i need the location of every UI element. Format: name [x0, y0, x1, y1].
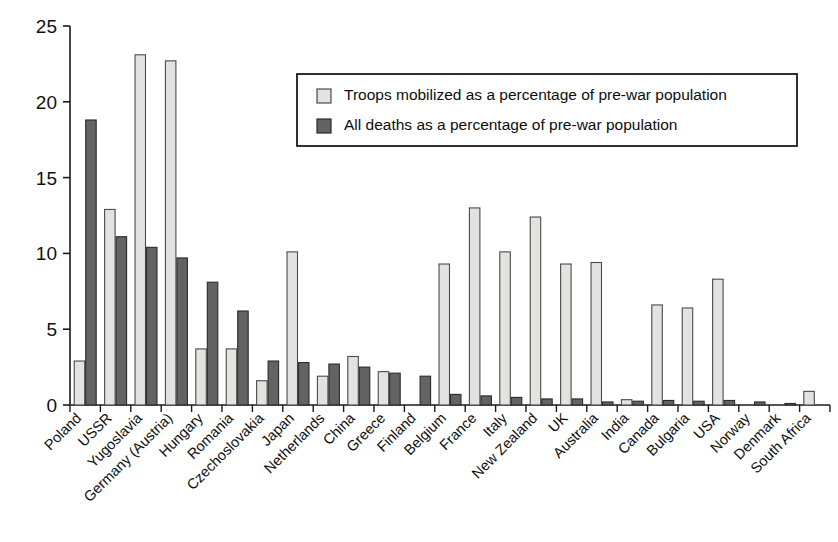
- bar-troops-mobilized: [74, 361, 84, 405]
- y-axis-tick-label: 15: [36, 168, 57, 189]
- bar-troops-mobilized: [105, 209, 115, 405]
- bar-troops-mobilized: [652, 305, 662, 405]
- bar-all-deaths: [663, 400, 673, 405]
- bar-all-deaths: [724, 400, 734, 405]
- bar-troops-mobilized: [713, 279, 723, 405]
- bar-all-deaths: [207, 282, 217, 405]
- legend-box: [297, 74, 797, 146]
- bar-troops-mobilized: [469, 208, 479, 405]
- bar-troops-mobilized: [348, 356, 358, 405]
- y-axis-tick-label: 10: [36, 243, 57, 264]
- bar-all-deaths: [268, 361, 278, 405]
- bar-troops-mobilized: [287, 252, 297, 405]
- bar-all-deaths: [755, 402, 765, 405]
- bar-troops-mobilized: [561, 264, 571, 405]
- bar-all-deaths: [542, 399, 552, 405]
- bar-troops-mobilized: [621, 400, 631, 405]
- y-axis-tick-label: 25: [36, 16, 57, 37]
- bar-troops-mobilized: [439, 264, 449, 405]
- legend-swatch-all-deaths: [317, 119, 331, 133]
- bar-troops-mobilized: [165, 61, 175, 405]
- bar-all-deaths: [420, 376, 430, 405]
- bar-all-deaths: [511, 397, 521, 405]
- bar-all-deaths: [116, 237, 126, 405]
- bar-all-deaths: [481, 396, 491, 405]
- bar-troops-mobilized: [196, 349, 206, 405]
- bar-troops-mobilized: [530, 217, 540, 405]
- bar-troops-mobilized: [682, 308, 692, 405]
- y-axis-tick-label: 0: [46, 395, 57, 416]
- bar-all-deaths: [86, 120, 96, 405]
- bar-troops-mobilized: [500, 252, 510, 405]
- bar-all-deaths: [329, 364, 339, 405]
- bar-all-deaths: [603, 402, 613, 405]
- bar-troops-mobilized: [135, 55, 145, 405]
- chart-canvas: 0510152025 PolandUSSRYugoslaviaGermany (…: [0, 0, 838, 542]
- bar-troops-mobilized: [378, 372, 388, 405]
- bar-all-deaths: [694, 401, 704, 405]
- bar-all-deaths: [359, 367, 369, 405]
- bar-all-deaths: [390, 373, 400, 405]
- bar-all-deaths: [238, 311, 248, 405]
- legend-swatch-troops-mobilized: [317, 89, 331, 103]
- bar-all-deaths: [785, 403, 795, 405]
- bar-troops-mobilized: [226, 349, 236, 405]
- bar-all-deaths: [147, 247, 157, 405]
- bar-troops-mobilized: [317, 376, 327, 405]
- bar-troops-mobilized: [804, 391, 814, 405]
- y-axis-tick-label: 20: [36, 92, 57, 113]
- y-axis-tick-label: 5: [46, 319, 57, 340]
- bar-chart: 0510152025 PolandUSSRYugoslaviaGermany (…: [0, 0, 838, 542]
- bar-all-deaths: [451, 394, 461, 405]
- legend-label-troops-mobilized: Troops mobilized as a percentage of pre-…: [344, 86, 727, 103]
- bar-all-deaths: [177, 258, 187, 405]
- bar-all-deaths: [299, 363, 309, 405]
- bar-troops-mobilized: [591, 262, 601, 405]
- bar-all-deaths: [572, 399, 582, 405]
- bar-troops-mobilized: [257, 381, 267, 405]
- legend-label-all-deaths: All deaths as a percentage of pre-war po…: [344, 116, 677, 133]
- chart-legend: Troops mobilized as a percentage of pre-…: [297, 74, 797, 146]
- bar-all-deaths: [633, 401, 643, 405]
